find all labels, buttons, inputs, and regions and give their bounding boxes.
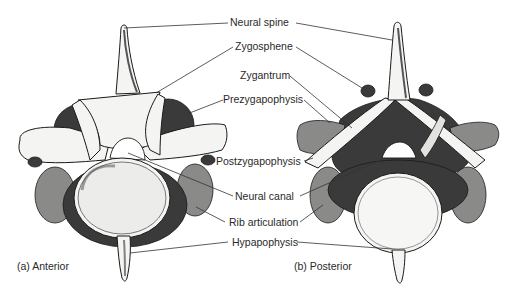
label-postzygapophysis: Postzygapophysis bbox=[216, 155, 301, 167]
caption-posterior: (b) Posterior bbox=[294, 260, 352, 272]
label-zygantrum: Zygantrum bbox=[240, 69, 290, 81]
label-rib-articulation: Rib articulation bbox=[229, 216, 298, 228]
label-neural-spine: Neural spine bbox=[230, 16, 289, 28]
label-prezygapophysis: Prezygapophysis bbox=[223, 93, 303, 105]
label-hypapophysis: Hypapophysis bbox=[232, 236, 298, 248]
caption-anterior: (a) Anterior bbox=[17, 260, 69, 272]
label-zygosphene: Zygosphene bbox=[235, 40, 293, 52]
vertebra-diagram: Neural spine Zygosphene Zygantrum Prezyg… bbox=[0, 0, 515, 293]
anterior-vertebra-illustration bbox=[19, 25, 227, 281]
label-neural-canal: Neural canal bbox=[235, 190, 294, 202]
